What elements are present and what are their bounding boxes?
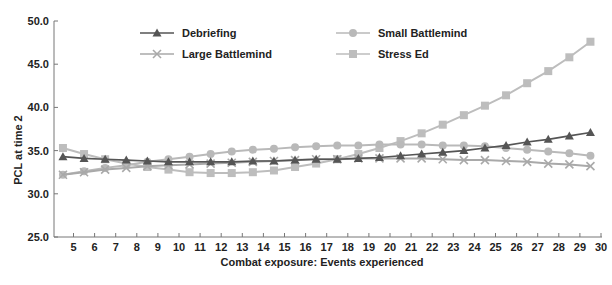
y-tick-label: 45.0 bbox=[28, 58, 49, 70]
legend-item: Stress Ed bbox=[336, 48, 429, 60]
line-chart: 25.030.035.040.045.050.0 567891011121314… bbox=[0, 0, 612, 285]
y-tick-label: 35.0 bbox=[28, 145, 49, 157]
y-axis-title: PCL at time 2 bbox=[12, 115, 24, 185]
square-marker bbox=[523, 79, 531, 87]
square-marker bbox=[291, 163, 299, 171]
series-layer bbox=[58, 38, 595, 179]
series-large-battlemind bbox=[59, 154, 595, 178]
y-tick-label: 50.0 bbox=[28, 15, 49, 27]
x-tick-label: 11 bbox=[194, 241, 206, 253]
y-tick-label: 25.0 bbox=[28, 231, 49, 243]
square-marker bbox=[502, 91, 510, 99]
x-tick-label: 6 bbox=[92, 241, 98, 253]
square-marker bbox=[586, 38, 594, 46]
square-marker bbox=[565, 53, 573, 61]
legend: DebriefingLarge BattlemindSmall Battlemi… bbox=[140, 27, 467, 60]
circle-marker bbox=[586, 152, 594, 160]
x-tick-label: 20 bbox=[384, 241, 396, 253]
x-tick-label: 14 bbox=[257, 241, 270, 253]
x-tick-label: 16 bbox=[299, 241, 311, 253]
x-axis-title: Combat exposure: Events experienced bbox=[221, 256, 424, 268]
legend-item: Large Battlemind bbox=[140, 48, 272, 60]
square-marker bbox=[186, 168, 194, 176]
circle-marker bbox=[523, 146, 531, 154]
legend-label: Stress Ed bbox=[378, 48, 429, 60]
square-marker bbox=[249, 168, 257, 176]
y-axis: 25.030.035.040.045.050.0 bbox=[28, 15, 58, 243]
circle-marker bbox=[249, 146, 257, 154]
circle-marker bbox=[354, 141, 362, 149]
x-tick-label: 12 bbox=[215, 241, 227, 253]
square-marker bbox=[270, 166, 278, 174]
square-marker bbox=[164, 166, 172, 174]
x-tick-label: 24 bbox=[468, 241, 481, 253]
x-tick-label: 18 bbox=[342, 241, 354, 253]
x-tick-label: 27 bbox=[532, 241, 544, 253]
x-tick-label: 29 bbox=[574, 241, 586, 253]
x-tick-label: 22 bbox=[426, 241, 438, 253]
circle-marker bbox=[349, 29, 357, 37]
x-tick-label: 26 bbox=[510, 241, 522, 253]
x-tick-label: 7 bbox=[113, 241, 119, 253]
x-tick-label: 10 bbox=[173, 241, 185, 253]
x-tick-label: 15 bbox=[278, 241, 290, 253]
square-marker bbox=[59, 144, 67, 152]
square-marker bbox=[481, 102, 489, 110]
circle-marker bbox=[333, 141, 341, 149]
x-tick-label: 23 bbox=[447, 241, 459, 253]
circle-marker bbox=[397, 141, 405, 149]
circle-marker bbox=[291, 143, 299, 151]
legend-label: Small Battlemind bbox=[378, 27, 467, 39]
x-tick-label: 17 bbox=[321, 241, 333, 253]
x-tick-label: 28 bbox=[553, 241, 565, 253]
series-stress-ed bbox=[59, 38, 595, 177]
x-tick-label: 21 bbox=[405, 241, 417, 253]
circle-marker bbox=[207, 150, 215, 158]
y-tick-label: 40.0 bbox=[28, 101, 49, 113]
x-axis: 5678910111213141516171819202122232425262… bbox=[54, 233, 607, 253]
legend-label: Debriefing bbox=[182, 27, 236, 39]
circle-marker bbox=[270, 145, 278, 153]
y-tick-label: 30.0 bbox=[28, 188, 49, 200]
x-tick-label: 19 bbox=[363, 241, 375, 253]
square-marker bbox=[349, 50, 357, 58]
circle-marker bbox=[565, 149, 573, 157]
x-tick-label: 13 bbox=[236, 241, 248, 253]
circle-marker bbox=[418, 141, 426, 149]
legend-item: Debriefing bbox=[140, 27, 236, 39]
square-marker bbox=[228, 169, 236, 177]
legend-label: Large Battlemind bbox=[182, 48, 272, 60]
circle-marker bbox=[312, 142, 320, 150]
circle-marker bbox=[375, 141, 383, 149]
legend-item: Small Battlemind bbox=[336, 27, 467, 39]
circle-marker bbox=[228, 147, 236, 155]
circle-marker bbox=[544, 147, 552, 155]
square-marker bbox=[207, 169, 215, 177]
x-tick-label: 30 bbox=[595, 241, 607, 253]
triangle-marker bbox=[586, 128, 595, 136]
x-tick-label: 9 bbox=[155, 241, 161, 253]
square-marker bbox=[544, 67, 552, 75]
square-marker bbox=[418, 129, 426, 137]
square-marker bbox=[439, 121, 447, 129]
x-tick-label: 25 bbox=[489, 241, 501, 253]
square-marker bbox=[460, 111, 468, 119]
x-tick-label: 5 bbox=[70, 241, 76, 253]
x-tick-label: 8 bbox=[134, 241, 140, 253]
